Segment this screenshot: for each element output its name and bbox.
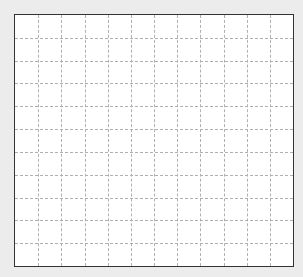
grid-horizontal-line: [15, 152, 293, 153]
grid-horizontal-line: [15, 38, 293, 39]
grid-vertical-line: [270, 15, 271, 266]
grid-horizontal-line: [15, 106, 293, 107]
grid-horizontal-line: [15, 129, 293, 130]
grid-horizontal-line: [15, 220, 293, 221]
grid-vertical-line: [247, 15, 248, 266]
grid-vertical-line: [177, 15, 178, 266]
grid-vertical-line: [200, 15, 201, 266]
grid-vertical-line: [224, 15, 225, 266]
grid-vertical-line: [38, 15, 39, 266]
grid-horizontal-line: [15, 243, 293, 244]
grid-horizontal-line: [15, 61, 293, 62]
grid-vertical-line: [154, 15, 155, 266]
grid-horizontal-line: [15, 175, 293, 176]
grid-panel: [14, 14, 294, 267]
grid-vertical-line: [131, 15, 132, 266]
grid-vertical-line: [85, 15, 86, 266]
grid-vertical-line: [108, 15, 109, 266]
grid-horizontal-line: [15, 83, 293, 84]
grid-horizontal-line: [15, 198, 293, 199]
grid-vertical-line: [61, 15, 62, 266]
